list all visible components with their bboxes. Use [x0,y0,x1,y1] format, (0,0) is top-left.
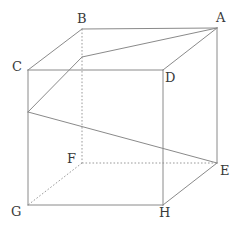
cube-svg-canvas [0,0,243,237]
vertex-label-d: D [165,71,175,84]
cube-diagram: ABCDEFGH [0,0,243,237]
vertex-label-f: F [67,152,76,165]
edge-qe [28,112,217,163]
vertex-label-b: B [77,12,87,25]
edge-ap [82,28,217,57]
hidden-edge-fg [28,163,82,205]
vertex-label-c: C [12,60,22,73]
edge-ba [82,28,217,29]
vertex-label-g: G [11,205,21,218]
edge-pq [28,57,82,112]
solid-edge-group [28,28,217,205]
vertex-label-h: H [159,206,170,219]
edge-he [163,163,217,205]
edge-cb [28,29,82,70]
vertex-label-a: A [216,11,225,24]
vertex-label-e: E [220,164,230,177]
hidden-edge-group [28,29,217,205]
